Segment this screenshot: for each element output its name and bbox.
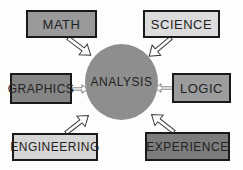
diagram-canvas: ANALYSIS MATH SCIENCE GRAPHICS LOGIC ENG… (0, 0, 243, 170)
node-graphics: GRAPHICS (10, 73, 72, 104)
node-science: SCIENCE (143, 10, 220, 38)
node-logic: LOGIC (172, 73, 231, 103)
node-graphics-label: GRAPHICS (8, 82, 75, 96)
analysis-hub: ANALYSIS (85, 44, 158, 120)
node-experience: EXPERIENCE (145, 132, 230, 161)
node-engineering-label: ENGINEERING (10, 140, 100, 154)
node-math-label: MATH (43, 17, 81, 32)
node-math: MATH (26, 10, 97, 38)
node-logic-label: LOGIC (180, 81, 223, 96)
node-engineering: ENGINEERING (12, 133, 98, 161)
node-science-label: SCIENCE (151, 17, 212, 32)
node-experience-label: EXPERIENCE (146, 140, 228, 154)
analysis-label: ANALYSIS (91, 75, 153, 89)
